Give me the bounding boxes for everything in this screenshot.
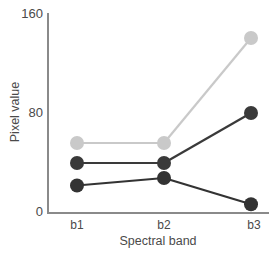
data-point-marker xyxy=(244,197,258,211)
series-line-segment xyxy=(164,178,251,204)
series-line-segment xyxy=(77,178,164,186)
data-point-marker xyxy=(157,156,171,170)
data-point-marker xyxy=(157,136,171,150)
data-point-marker xyxy=(70,179,84,193)
series-line-segment xyxy=(164,113,251,163)
data-point-marker xyxy=(70,156,84,170)
data-point-marker xyxy=(244,31,258,45)
data-point-marker xyxy=(244,106,258,120)
data-series-2 xyxy=(70,171,258,211)
data-series-0 xyxy=(70,31,258,150)
spectral-band-line-chart: 160 80 0 b1 b2 b3 Spectral band Pixel va… xyxy=(0,0,271,260)
data-point-marker xyxy=(157,171,171,185)
plot-area xyxy=(0,0,271,260)
series-line-segment xyxy=(164,38,251,143)
data-point-marker xyxy=(70,136,84,150)
